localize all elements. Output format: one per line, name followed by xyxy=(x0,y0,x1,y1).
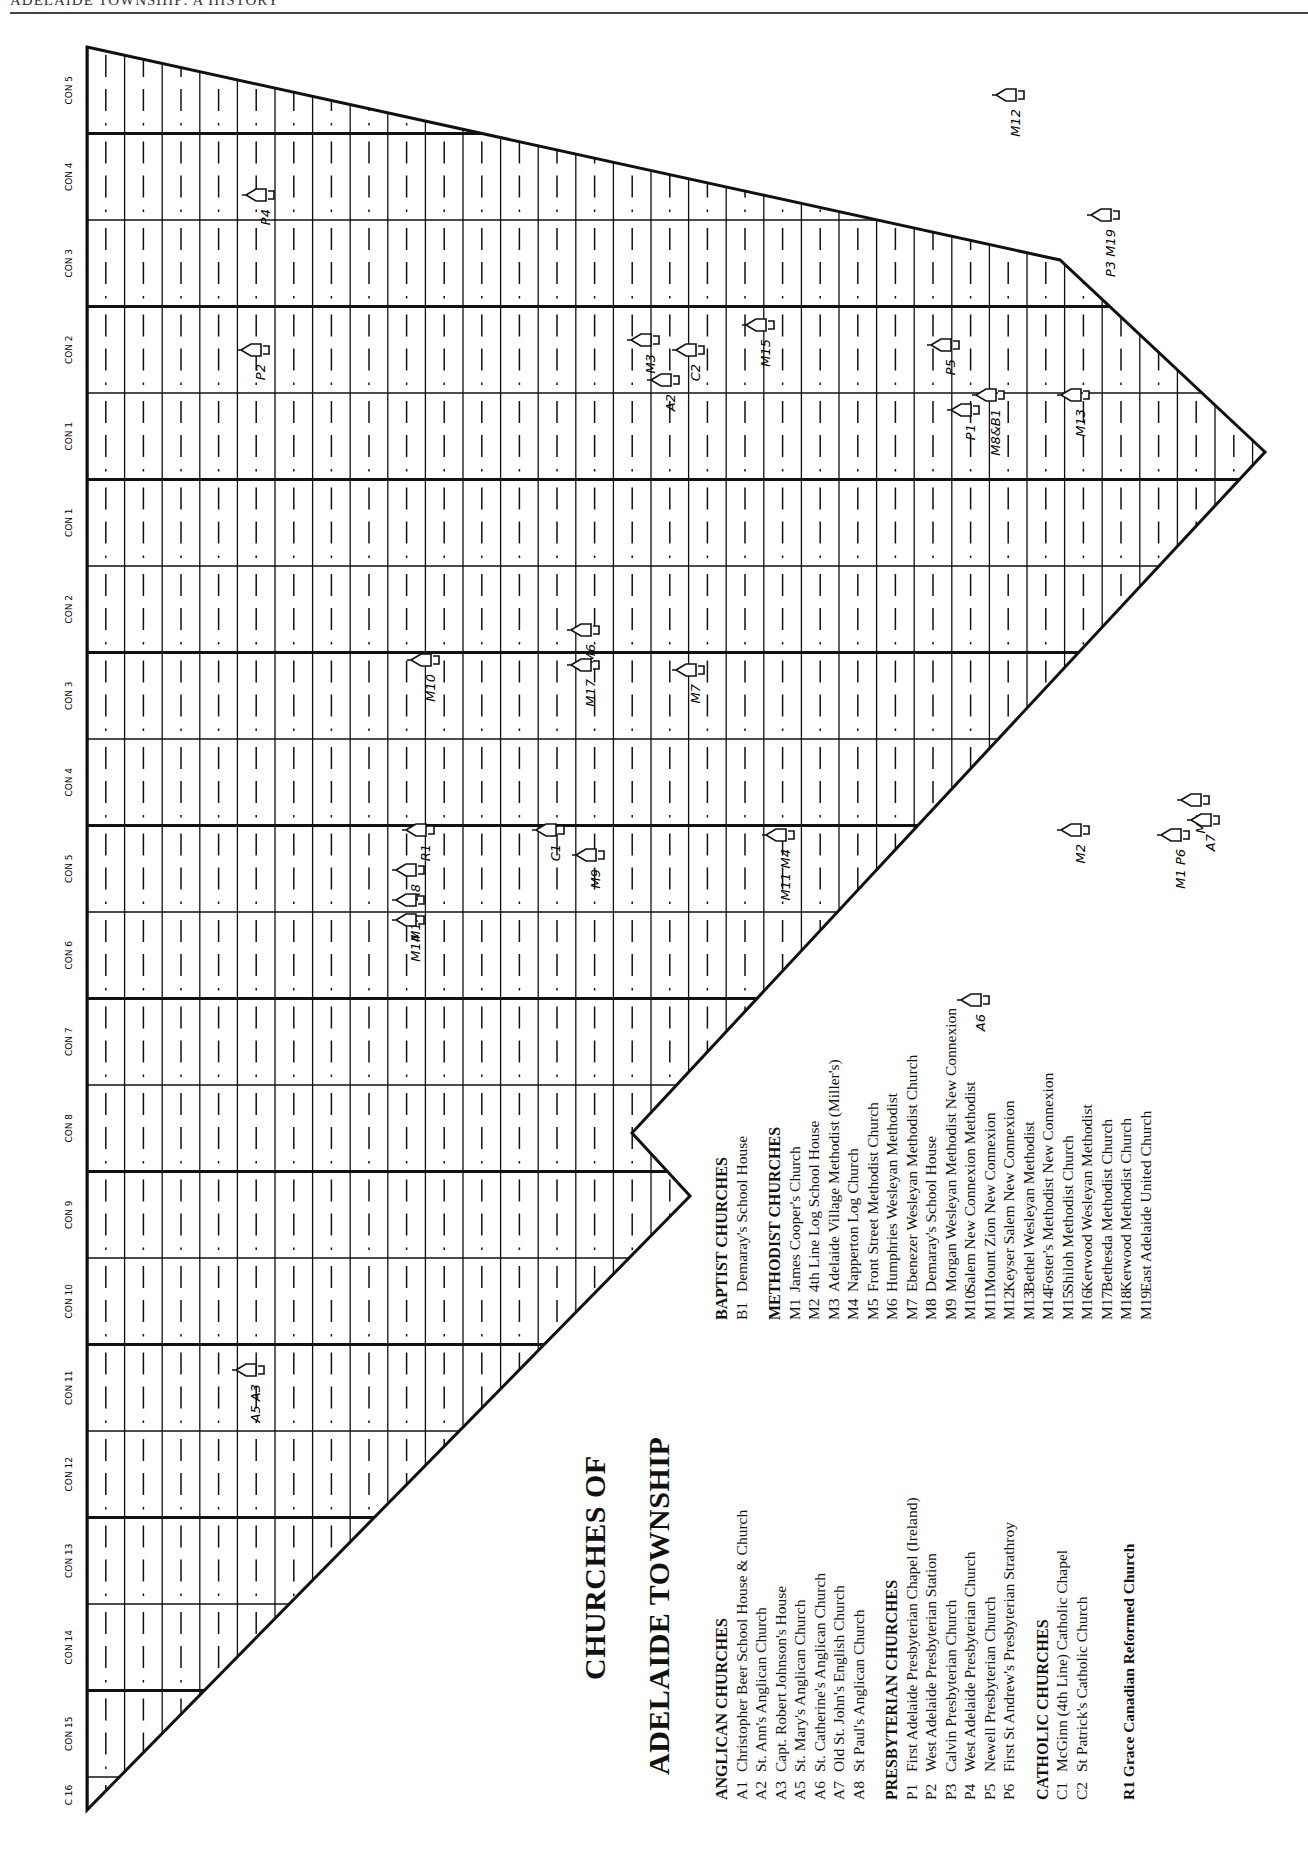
concession-label: CON 2 xyxy=(64,595,74,624)
legend-name: Mount Zion New Connexion xyxy=(981,1112,998,1292)
legend-code: P3 xyxy=(941,1772,961,1800)
legend-item-a2: A2St. Ann's Anglican Church xyxy=(751,1497,771,1800)
legend-name: First St Andrew's Presbyterian Strathroy xyxy=(1000,1522,1017,1772)
legend-item-m8: M8Demaray's School House xyxy=(921,1008,941,1320)
church-icon xyxy=(237,344,269,356)
legend-item-a3: A3Capt. Robert Johnson's House xyxy=(771,1497,791,1800)
church-icon xyxy=(972,389,1004,401)
legend-code: M9 xyxy=(941,1292,961,1320)
legend-item-p6: P6First St Andrew's Presbyterian Strathr… xyxy=(999,1497,1019,1800)
map-title-line1: CHURCHES OF xyxy=(578,1455,612,1680)
legend-code: M17 xyxy=(1097,1292,1117,1320)
legend-code: M2 xyxy=(804,1292,824,1320)
legend-item-m13: M13Bethel Wesleyan Methodist xyxy=(1019,1008,1039,1320)
legend-code: M12 xyxy=(999,1292,1019,1320)
church-marker: M15 xyxy=(742,319,774,367)
legend-item-m18: M18Kerwood Methodist Church xyxy=(1116,1008,1136,1320)
legend-list-presbyterian: P1First Adelaide Presbyterian Chapel (Ir… xyxy=(902,1497,1019,1800)
legend-item-m3: M3Adelaide Village Methodist (Miller's) xyxy=(824,1008,844,1320)
church-icon xyxy=(1057,824,1089,836)
legend-name: St. Mary's Anglican Church xyxy=(791,1600,808,1772)
legend-code: A7 xyxy=(829,1772,849,1800)
legend-code: M8 xyxy=(921,1292,941,1320)
legend-code: R1 xyxy=(1120,1781,1137,1800)
legend-code: M3 xyxy=(824,1292,844,1320)
concession-label: CON 1 xyxy=(64,508,74,537)
legend-item-m5: M5Front Street Methodist Church xyxy=(863,1008,883,1320)
legend-item-m12: M12Keyser Salem New Connexion xyxy=(999,1008,1019,1320)
legend-name: Morgan Wesleyan Methodist New Connexion xyxy=(942,1008,959,1292)
concession-label: CON 3 xyxy=(64,249,74,278)
church-marker-label: M17 xyxy=(583,678,598,706)
legend-item-p3: P3Calvin Presbyterian Church xyxy=(941,1497,961,1800)
legend-item-p4: P4West Adelaide Presbyterian Church xyxy=(960,1497,980,1800)
church-marker-label: M8&B1 xyxy=(988,409,1003,456)
church-icon xyxy=(1087,209,1119,221)
church-marker-label: P5 xyxy=(943,359,958,375)
legend-item-a5: A5St. Mary's Anglican Church xyxy=(790,1497,810,1800)
legend-heading-methodist: METHODIST CHURCHES xyxy=(765,1008,785,1320)
legend-item-m2: M24th Line Log School House xyxy=(804,1008,824,1320)
legend-name: West Adelaide Presbyterian Church xyxy=(961,1552,978,1772)
legend-list-methodist: M1James Cooper's ChurchM24th Line Log Sc… xyxy=(785,1008,1156,1320)
legend-code: P1 xyxy=(902,1772,922,1800)
concession-label: CON 10 xyxy=(64,1284,74,1319)
church-icon xyxy=(672,664,704,676)
legend-name: Bethel Wesleyan Methodist xyxy=(1020,1121,1037,1292)
legend-code: M13 xyxy=(1019,1292,1039,1320)
church-icon xyxy=(742,319,774,331)
legend-name: James Cooper's Church xyxy=(786,1146,803,1292)
church-icon xyxy=(392,864,424,876)
church-icon xyxy=(567,624,599,636)
concession-label: CON 3 xyxy=(64,681,74,710)
legend-item-c1: C1McGinn (4th Line) Catholic Chapel xyxy=(1052,1497,1072,1800)
legend-name: West Adelaide Presbyterian Station xyxy=(922,1553,939,1772)
church-icon xyxy=(242,189,274,201)
concession-label: CON 2 xyxy=(64,335,74,364)
legend-code: P6 xyxy=(999,1772,1019,1800)
legend-item-p2: P2West Adelaide Presbyterian Station xyxy=(921,1497,941,1800)
church-marker: M11 M4 xyxy=(762,829,794,900)
legend-item-a6: A6St. Catherine's Anglican Church xyxy=(810,1497,830,1800)
legend-heading-catholic: CATHOLIC CHURCHES xyxy=(1033,1497,1053,1800)
church-icon xyxy=(647,374,679,386)
legend-item-c2: C2St Patrick's Catholic Church xyxy=(1072,1497,1092,1800)
concession-label: CON 4 xyxy=(64,162,74,191)
legend-right-column: BAPTIST CHURCHES B1Demaray's School Hous… xyxy=(712,1008,1155,1320)
legend-code: M19 xyxy=(1136,1292,1156,1320)
legend-name: Grace Canadian Reformed Church xyxy=(1120,1544,1137,1778)
legend-item-m14: M14Foster's Methodist New Connexion xyxy=(1038,1008,1058,1320)
concession-label: CON 8 xyxy=(64,1114,74,1143)
concession-label: CON 11 xyxy=(64,1371,74,1405)
concession-label: CON 4 xyxy=(64,768,74,797)
church-icon xyxy=(572,849,604,861)
concession-label: C 16 xyxy=(64,1784,74,1805)
legend-list-baptist: B1Demaray's School House xyxy=(732,1008,752,1320)
legend-name: Christopher Beer School House & Church xyxy=(733,1510,750,1772)
church-marker: M8&B1 xyxy=(972,389,1004,456)
church-marker: M9 xyxy=(572,849,604,889)
church-marker: M17 xyxy=(567,659,599,707)
church-icon xyxy=(1177,794,1209,806)
legend-name: St. Ann's Anglican Church xyxy=(752,1607,769,1772)
concession-label: CON 6 xyxy=(64,941,74,970)
legend-code: M14 xyxy=(1038,1292,1058,1320)
concession-label: CON 13 xyxy=(64,1544,74,1578)
church-marker: M12 xyxy=(992,89,1024,137)
legend-name: St Paul's Anglican Church xyxy=(850,1609,867,1772)
legend-name: Adelaide Village Methodist (Miller's) xyxy=(825,1059,842,1292)
church-icon xyxy=(1057,389,1089,401)
church-icon xyxy=(1157,829,1189,841)
legend-item-m19: M19East Adelaide United Church xyxy=(1136,1008,1156,1320)
legend-code: C1 xyxy=(1052,1772,1072,1800)
legend-left-column: ANGLICAN CHURCHES A1Christopher Beer Sch… xyxy=(712,1497,1139,1800)
church-icon xyxy=(407,654,439,666)
church-marker-label: M10 xyxy=(423,674,438,702)
legend-code: C2 xyxy=(1072,1772,1092,1800)
church-marker: M1 P6 xyxy=(1157,829,1189,889)
church-marker-label: M11 M4 xyxy=(778,849,793,900)
legend-list-catholic: C1McGinn (4th Line) Catholic ChapelC2St … xyxy=(1052,1497,1091,1800)
church-marker-label: M7 xyxy=(688,683,703,703)
legend-name: Calvin Presbyterian Church xyxy=(942,1600,959,1772)
legend-name: Demaray's School House xyxy=(922,1136,939,1292)
